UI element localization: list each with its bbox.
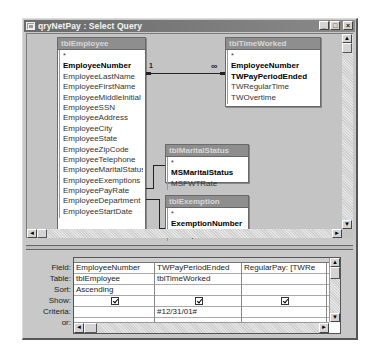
all-fields-item[interactable]: * (171, 158, 246, 168)
all-fields-item[interactable]: * (63, 51, 143, 61)
window-title: qryNetPay : Select Query (38, 21, 142, 31)
all-fields-item[interactable]: * (231, 51, 318, 61)
field-item[interactable]: MSFWTRate (171, 179, 246, 189)
field-item[interactable]: EmployeeMiddleInitial (63, 93, 143, 103)
field-list: *EmployeeNumberTWPayPeriodEndedTWRegular… (227, 50, 320, 104)
title-bar[interactable]: qryNetPay : Select Query _ □ × (24, 20, 355, 32)
field-list: *EmployeeNumberEmployeeLastNameEmployeeF… (59, 50, 145, 218)
row-label-table: Table: (26, 273, 72, 284)
grid-cell-sort[interactable] (155, 285, 241, 296)
grid-cell-sort[interactable] (242, 285, 326, 296)
field-item[interactable]: EmployeeCity (63, 124, 143, 134)
grid-cell-table[interactable] (242, 274, 326, 285)
field-item[interactable]: EmployeeFirstName (63, 82, 143, 92)
field-item[interactable]: EmployeeMaritalStatus (63, 165, 143, 175)
grid-column: RegularPay: [TWRe (242, 263, 327, 322)
relationship-line (153, 165, 154, 189)
scroll-thumb[interactable] (37, 229, 47, 238)
show-checkbox[interactable] (111, 297, 119, 305)
close-button[interactable]: × (343, 21, 353, 30)
field-item[interactable]: EmployeeExemptions (63, 176, 143, 186)
design-grid-pane: Field: Table: Sort: Show: Criteria: or: … (26, 251, 353, 337)
relationship-line[interactable] (146, 73, 225, 74)
field-item[interactable]: EmployeeAddress (63, 113, 143, 123)
grid-cell-criteria[interactable]: #12/31/01# (155, 307, 241, 318)
scroll-thumb[interactable] (84, 323, 97, 333)
relationship-end (146, 72, 151, 75)
grid-cell-show[interactable] (242, 296, 326, 307)
row-label-field: Field: (26, 262, 72, 273)
field-item[interactable]: EmployeeStartDate (63, 207, 143, 217)
table-pane: tblEmployee *EmployeeNumberEmployeeLastN… (26, 33, 353, 238)
field-item[interactable]: EmployeeLastName (63, 72, 143, 82)
field-item[interactable]: EmployeeZipCode (63, 145, 143, 155)
relationship-line[interactable] (146, 199, 160, 200)
grid-cell-field[interactable]: TWPayPeriodEnded (155, 263, 241, 274)
query-icon[interactable] (26, 22, 35, 30)
scroll-right-button[interactable]: ► (319, 323, 329, 333)
upper-vertical-scrollbar[interactable]: ▲ ▼ (342, 34, 353, 229)
scroll-left-button[interactable]: ◄ (74, 323, 84, 333)
relationship-line (159, 199, 160, 229)
scroll-right-button[interactable]: ► (332, 229, 342, 238)
show-checkbox[interactable] (281, 297, 289, 305)
field-item[interactable]: TWRegularTime (231, 82, 318, 92)
table-title[interactable]: tblEmployee (58, 38, 145, 50)
minimize-button[interactable]: _ (319, 21, 329, 30)
field-item[interactable]: EmployeePayRate (63, 186, 143, 196)
grid-cell-table[interactable]: tblTimeWorked (155, 274, 241, 285)
scroll-left-button[interactable]: ◄ (27, 229, 37, 238)
grid-column: TWPayPeriodEndedtblTimeWorked#12/31/01# (155, 263, 242, 322)
field-item[interactable]: TWOvertime (231, 93, 318, 103)
grid-horizontal-scrollbar[interactable]: ◄ ► (74, 322, 329, 333)
table-timeworked[interactable]: tblTimeWorked *EmployeeNumberTWPayPeriod… (225, 37, 321, 107)
table-title[interactable]: tblExemption (166, 196, 248, 208)
table-employee[interactable]: tblEmployee *EmployeeNumberEmployeeLastN… (57, 37, 146, 234)
grid-vertical-scrollbar[interactable]: ▲ ▼ (329, 258, 340, 322)
grid-cell-show[interactable] (155, 296, 241, 307)
upper-horizontal-scrollbar[interactable]: ◄ ► (27, 229, 342, 238)
row-label-criteria: Criteria: (26, 306, 72, 317)
grid-cell-field[interactable]: EmployeeNumber (74, 263, 154, 274)
field-item[interactable]: MSMaritalStatus (171, 168, 246, 178)
grid-cell-show[interactable] (74, 296, 154, 307)
field-item[interactable]: TWPayPeriodEnded (231, 72, 318, 82)
field-item[interactable]: EmployeeNumber (231, 61, 318, 71)
table-title[interactable]: tblMaritalStatus (166, 145, 248, 157)
grid-cell-criteria[interactable] (242, 307, 326, 318)
many-label: ∞ (211, 61, 217, 71)
scroll-up-button[interactable]: ▲ (342, 34, 352, 43)
field-list: *MSMaritalStatusMSFWTRate (167, 157, 248, 190)
row-label-show: Show: (26, 295, 72, 306)
field-item[interactable]: EmployeeNumber (63, 61, 143, 71)
scroll-down-button[interactable]: ▼ (330, 313, 340, 322)
pane-splitter[interactable] (26, 245, 353, 250)
row-label-or: or: (26, 317, 72, 328)
row-label-sort: Sort: (26, 284, 72, 295)
relationship-line (153, 165, 165, 166)
one-label: 1 (149, 62, 153, 69)
grid-column: EmployeeNumbertblEmployeeAscending (74, 263, 155, 322)
field-item[interactable]: EmployeeTelephone (63, 155, 143, 165)
grid-cell-criteria[interactable] (74, 307, 154, 318)
query-window: qryNetPay : Select Query _ □ × tblEmploy… (22, 18, 358, 340)
field-item[interactable]: EmployeeSSN (63, 103, 143, 113)
field-item[interactable]: EmployeeState (63, 134, 143, 144)
table-maritalstatus[interactable]: tblMaritalStatus *MSMaritalStatusMSFWTRa… (165, 144, 249, 183)
grid-cell-table[interactable]: tblEmployee (74, 274, 154, 285)
table-title[interactable]: tblTimeWorked (226, 38, 320, 50)
relationship-line[interactable] (146, 188, 153, 189)
scroll-thumb[interactable] (330, 267, 340, 279)
grid-cell-sort[interactable]: Ascending (74, 285, 154, 296)
design-grid: EmployeeNumbertblEmployeeAscendingTWPayP… (73, 257, 341, 334)
scroll-down-button[interactable]: ▼ (342, 220, 352, 229)
all-fields-item[interactable]: * (171, 209, 246, 219)
scroll-thumb[interactable] (342, 43, 352, 53)
show-checkbox[interactable] (195, 297, 203, 305)
maximize-button[interactable]: □ (330, 21, 340, 30)
scroll-up-button[interactable]: ▲ (330, 258, 340, 267)
row-labels: Field: Table: Sort: Show: Criteria: or: (26, 262, 72, 328)
grid-cell-field[interactable]: RegularPay: [TWRe (242, 263, 326, 274)
field-item[interactable]: EmployeeDepartment (63, 196, 143, 206)
